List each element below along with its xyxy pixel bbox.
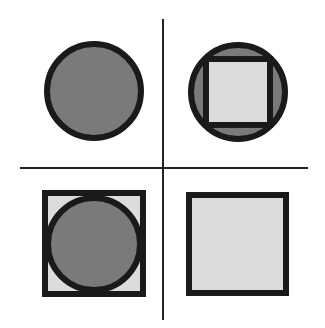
light-square <box>206 59 270 125</box>
quadrant-diagram <box>0 0 325 328</box>
top-right-quadrant <box>191 45 285 139</box>
dark-circle <box>48 198 140 290</box>
top-left-quadrant <box>47 44 141 138</box>
bottom-left-quadrant <box>45 193 143 294</box>
bottom-right-quadrant <box>189 195 286 293</box>
dark-circle <box>47 44 141 138</box>
diagram-canvas <box>0 0 325 328</box>
light-square <box>189 195 286 293</box>
